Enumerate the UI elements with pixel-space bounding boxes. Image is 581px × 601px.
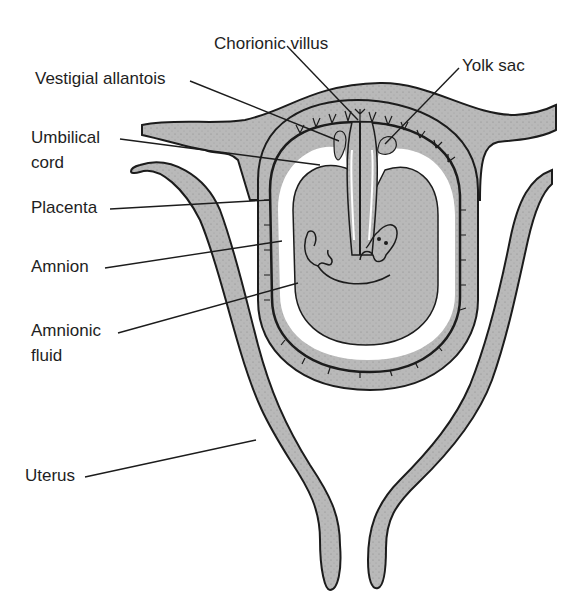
label-yolk-sac: Yolk sac (462, 55, 525, 77)
label-amnionic-fluid-line1: Amnionic (31, 320, 101, 342)
label-umbilical-cord-line2: cord (31, 152, 64, 174)
embryo-diagram: Chorionic villus Vestigial allantois Yol… (0, 0, 581, 601)
label-umbilical-cord-line1: Umbilical (31, 127, 100, 149)
label-chorionic-villus: Chorionic villus (214, 33, 328, 55)
label-vestigial-allantois: Vestigial allantois (35, 68, 165, 90)
label-uterus: Uterus (25, 465, 75, 487)
label-amnionic-fluid-line2: fluid (31, 345, 62, 367)
label-placenta: Placenta (31, 197, 97, 219)
label-amnion: Amnion (31, 256, 89, 278)
diagram-artwork (0, 0, 581, 601)
